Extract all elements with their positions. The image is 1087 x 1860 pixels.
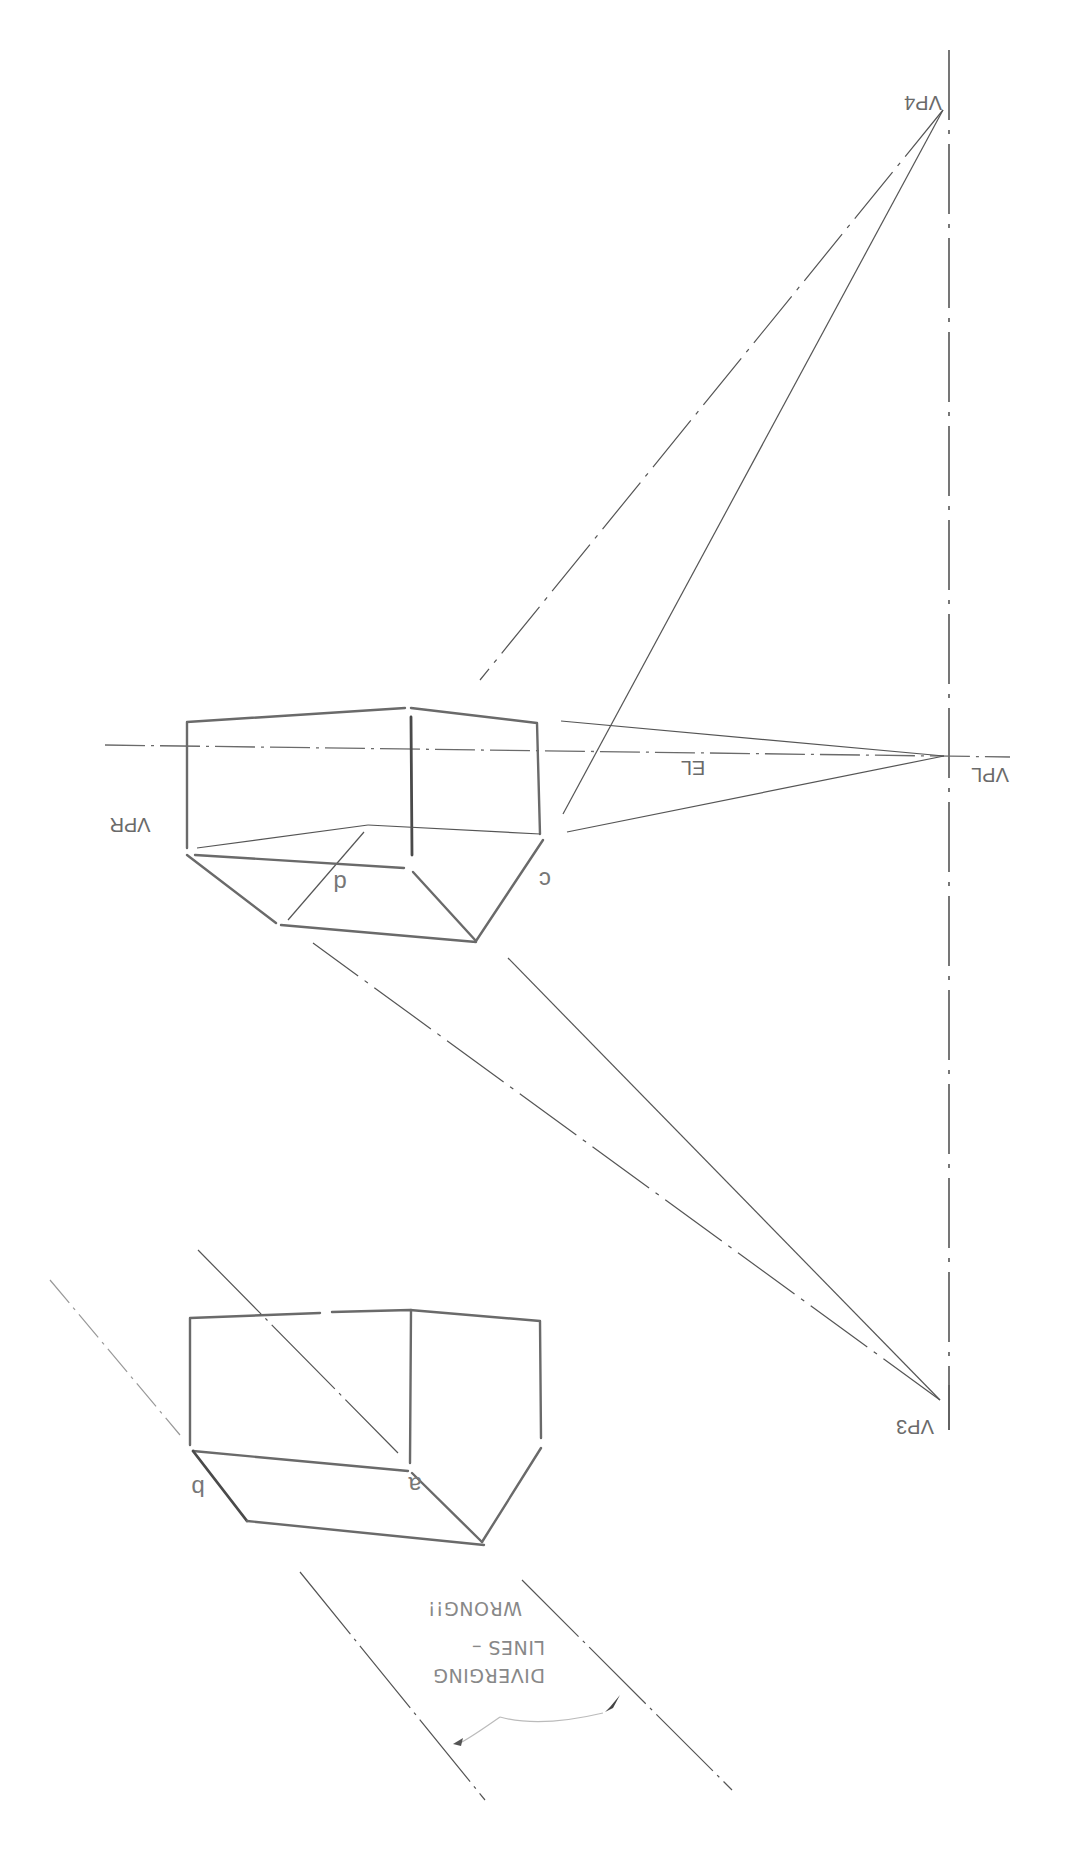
vp3-construction-lines	[313, 943, 940, 1400]
top-box	[187, 708, 543, 942]
annotation-arrow	[453, 1695, 620, 1746]
note-line-2: LINES –	[471, 1637, 545, 1659]
perspective-diagram: VP4 VPL EL VPR VP3 d c a b DIVERGING LIN…	[0, 0, 1087, 1860]
label-c: c	[539, 867, 551, 894]
note-line-3: WRONG!!	[427, 1598, 522, 1620]
label-b: b	[191, 1475, 204, 1502]
label-a: a	[408, 1472, 422, 1499]
label-vpr: VPR	[109, 814, 150, 836]
vpl-construction-lines	[561, 721, 944, 832]
note-line-1: DIVERGING	[433, 1665, 545, 1687]
eye-level-line	[105, 745, 1010, 757]
label-vp4: VP4	[904, 92, 942, 114]
bottom-box	[190, 1310, 541, 1545]
vp4-construction-lines	[480, 110, 943, 814]
label-el: EL	[681, 757, 705, 779]
label-d: d	[333, 870, 346, 897]
diverging-lines	[50, 1250, 732, 1800]
label-vp3: VP3	[896, 1416, 934, 1438]
label-vpl: VPL	[971, 764, 1009, 786]
note-diverging-lines-wrong: DIVERGING LINES – WRONG!!	[427, 1598, 545, 1687]
